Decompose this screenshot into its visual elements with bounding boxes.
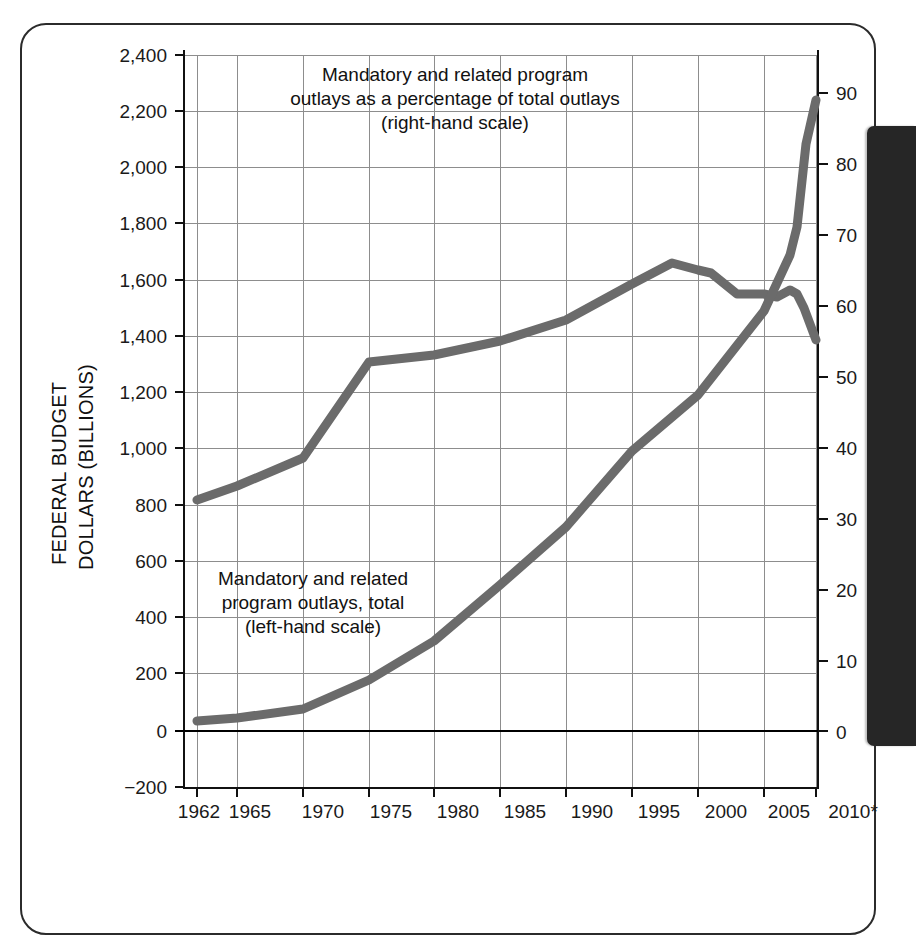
ytick-label: 600 (135, 551, 167, 572)
xtick-label: 1990 (571, 801, 613, 822)
y2tick-label: 30 (836, 509, 857, 530)
left-axis-title-line2: DOLLARS (BILLIONS) (75, 364, 97, 570)
ytick-label: 1,400 (119, 326, 167, 347)
ytick-label: 1,200 (119, 382, 167, 403)
annotation-dollars-line2: program outlays, total (222, 592, 405, 613)
ytick-label: 2,200 (119, 101, 167, 122)
ytick-label: 400 (135, 607, 167, 628)
annotation-dollars-line1: Mandatory and related (218, 568, 408, 589)
annotation-dollars-line3: (left-hand scale) (245, 616, 381, 637)
xtick-label: 1962 (178, 801, 220, 822)
y2tick-label: 60 (836, 296, 857, 317)
right-axis-ticks (818, 93, 828, 731)
y2tick-label: 80 (836, 154, 857, 175)
left-axis-ticks (175, 55, 184, 787)
ytick-label: 1,800 (119, 213, 167, 234)
ytick-label: 1,000 (119, 438, 167, 459)
ytick-label: 2,000 (119, 157, 167, 178)
plot-frame (175, 50, 818, 789)
left-axis-title: FEDERAL BUDGET DOLLARS (BILLIONS) (48, 364, 97, 570)
bottom-axis-ticks (197, 788, 816, 797)
left-axis-title-line1: FEDERAL BUDGET (48, 382, 70, 565)
y2tick-label: 40 (836, 438, 857, 459)
annotation-dollars-series: Mandatory and related program outlays, t… (218, 568, 408, 637)
right-axis-tick-labels: 90 80 70 60 50 40 30 20 10 0 (836, 83, 857, 743)
y2tick-label: 50 (836, 367, 857, 388)
xtick-label: 2010* (828, 801, 878, 822)
ytick-label: 200 (135, 663, 167, 684)
ytick-label: −200 (124, 777, 167, 798)
y2tick-label: 90 (836, 83, 857, 104)
y2tick-label: 70 (836, 225, 857, 246)
xtick-label: 1995 (638, 801, 680, 822)
vertical-gridlines (197, 55, 816, 787)
xtick-label: 2005 (768, 801, 810, 822)
y2tick-label: 0 (836, 722, 847, 743)
xtick-label: 1970 (302, 801, 344, 822)
xtick-label: 1980 (437, 801, 479, 822)
ytick-label: 0 (156, 721, 167, 742)
ytick-label: 1,600 (119, 270, 167, 291)
annotation-percentage-series: Mandatory and related program outlays as… (290, 64, 620, 133)
page-edge-tab (867, 126, 916, 746)
series-line-percentage-of-total-outlays (197, 263, 816, 500)
annotation-percentage-line2: outlays as a percentage of total outlays (290, 88, 620, 109)
annotation-percentage-line1: Mandatory and related program (322, 64, 588, 85)
xtick-label: 1985 (504, 801, 546, 822)
ytick-label: 800 (135, 495, 167, 516)
ytick-label: 2,400 (119, 45, 167, 66)
annotation-percentage-line3: (right-hand scale) (381, 112, 529, 133)
xtick-label: 1965 (229, 801, 271, 822)
xtick-label: 2000 (705, 801, 747, 822)
x-axis-tick-labels: 1962 1965 1970 1975 1980 1985 1990 1995 … (178, 801, 879, 822)
horizontal-gridlines (184, 55, 818, 787)
y2tick-label: 20 (836, 580, 857, 601)
y2tick-label: 10 (836, 651, 857, 672)
xtick-label: 1975 (370, 801, 412, 822)
left-axis-tick-labels: 2,400 2,200 2,000 1,800 1,600 1,400 1,20… (119, 45, 167, 798)
